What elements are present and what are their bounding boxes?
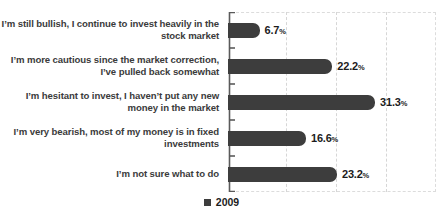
bar-zone: 6.7% xyxy=(228,12,443,48)
bar[interactable] xyxy=(228,23,260,38)
chart-row: I’m still bullish, I continue to invest … xyxy=(0,12,443,48)
percent-sign: % xyxy=(358,63,364,72)
legend-swatch-icon xyxy=(204,199,211,206)
chart-row: I’m not sure what to do 23.2% xyxy=(0,156,443,192)
chart-legend: 2009 xyxy=(0,196,443,208)
percent-sign: % xyxy=(401,99,407,108)
bar-zone: 31.3% xyxy=(228,84,443,120)
bar[interactable] xyxy=(228,95,375,110)
chart-row: I’m very bearish, most of my money is in… xyxy=(0,120,443,156)
legend-item-2009[interactable]: 2009 xyxy=(204,196,239,208)
bar-zone: 22.2% xyxy=(228,48,443,84)
category-label: I’m still bullish, I continue to invest … xyxy=(0,18,228,41)
plot-area: I’m still bullish, I continue to invest … xyxy=(0,0,443,192)
bar-zone: 16.6% xyxy=(228,120,443,156)
category-label: I’m more cautious since the market corre… xyxy=(0,54,228,77)
bar-value-number: 31.3 xyxy=(380,96,401,108)
bar-value-label: 16.6% xyxy=(311,132,338,144)
bar-value-number: 22.2 xyxy=(337,60,358,72)
bar-value-label: 6.7% xyxy=(265,24,286,36)
bar-chart: I’m still bullish, I continue to invest … xyxy=(0,0,443,224)
bar[interactable] xyxy=(228,59,332,74)
category-label: I’m not sure what to do xyxy=(0,168,228,180)
bar[interactable] xyxy=(228,131,306,146)
bar-value-label: 22.2% xyxy=(337,60,364,72)
category-label: I’m hesitant to invest, I haven’t put an… xyxy=(0,90,228,113)
percent-sign: % xyxy=(279,27,285,36)
bar[interactable] xyxy=(228,167,337,182)
chart-row: I’m more cautious since the market corre… xyxy=(0,48,443,84)
percent-sign: % xyxy=(332,135,338,144)
bar-value-number: 16.6 xyxy=(311,132,332,144)
bar-value-label: 23.2% xyxy=(342,168,369,180)
bar-zone: 23.2% xyxy=(228,156,443,192)
category-label: I’m very bearish, most of my money is in… xyxy=(0,126,228,149)
bar-value-number: 23.2 xyxy=(342,168,363,180)
bar-value-label: 31.3% xyxy=(380,96,407,108)
bar-value-number: 6.7 xyxy=(265,24,280,36)
chart-row: I’m hesitant to invest, I haven’t put an… xyxy=(0,84,443,120)
legend-label: 2009 xyxy=(216,196,239,208)
percent-sign: % xyxy=(363,171,369,180)
bar-rows: I’m still bullish, I continue to invest … xyxy=(0,12,443,192)
